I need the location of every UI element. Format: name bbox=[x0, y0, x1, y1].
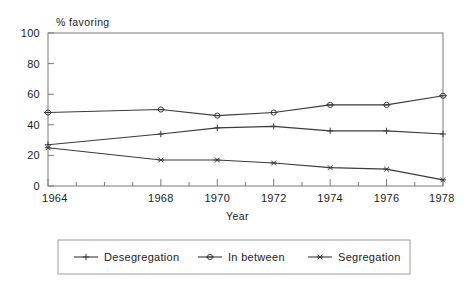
x-tick-label: 1978 bbox=[429, 192, 455, 204]
y-tick-label: 0 bbox=[34, 180, 40, 192]
data-point-desegregation-1976 bbox=[383, 128, 389, 134]
series-line-desegregation bbox=[48, 126, 443, 144]
data-point-segregation-1974 bbox=[327, 165, 333, 170]
data-point-in-between-1970 bbox=[213, 113, 221, 118]
data-point-segregation-1972 bbox=[271, 161, 277, 166]
data-point-segregation-1970 bbox=[214, 158, 220, 163]
plot-frame bbox=[48, 33, 443, 186]
x-axis-title: Year bbox=[226, 210, 249, 222]
data-point-in-between-1976 bbox=[383, 102, 391, 107]
data-point-desegregation-1964 bbox=[45, 141, 51, 147]
x-tick-label: 1970 bbox=[204, 192, 230, 204]
y-tick-label: 40 bbox=[27, 119, 40, 131]
y-tick-label: 60 bbox=[27, 88, 40, 100]
x-tick-label: 1974 bbox=[317, 192, 343, 204]
legend-item-label: Desegregation bbox=[104, 251, 179, 263]
data-point-desegregation-1970 bbox=[214, 125, 220, 131]
data-point-segregation-1976 bbox=[383, 167, 389, 172]
y-tick-label: 80 bbox=[27, 58, 40, 70]
y-tick-label: 20 bbox=[27, 149, 40, 161]
x-tick-label: 1968 bbox=[148, 192, 174, 204]
y-tick-label: 100 bbox=[21, 27, 40, 39]
data-point-in-between-1968 bbox=[157, 107, 165, 112]
data-point-desegregation-1972 bbox=[271, 123, 277, 129]
y-axis-title: % favoring bbox=[56, 16, 110, 28]
data-point-desegregation-1978 bbox=[440, 131, 446, 137]
data-point-in-between-1972 bbox=[270, 110, 278, 115]
legend-item-label: Segregation bbox=[338, 251, 401, 263]
line-chart: 0204060801001964196819701972197419761978… bbox=[0, 0, 464, 287]
legend-item-label: In between bbox=[228, 251, 285, 263]
x-tick-label: 1976 bbox=[374, 192, 400, 204]
x-tick-label: 1964 bbox=[42, 192, 68, 204]
data-point-desegregation-1968 bbox=[158, 131, 164, 137]
data-point-segregation-1968 bbox=[158, 158, 164, 163]
chart-figure: 0204060801001964196819701972197419761978… bbox=[0, 0, 464, 287]
x-tick-label: 1972 bbox=[261, 192, 287, 204]
data-point-in-between-1974 bbox=[326, 102, 334, 107]
data-point-desegregation-1974 bbox=[327, 128, 333, 134]
series-line-segregation bbox=[48, 148, 443, 180]
